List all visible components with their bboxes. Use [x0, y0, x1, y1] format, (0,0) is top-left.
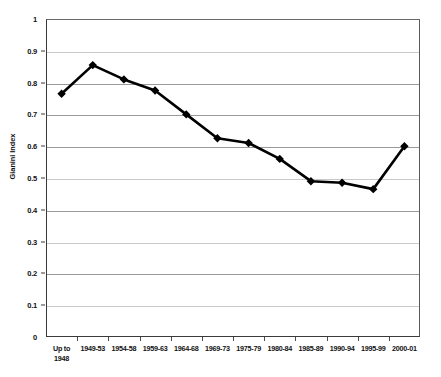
y-axis-tick-label: 0.3 [27, 237, 37, 246]
x-axis-tick-label: 1949-53 [76, 344, 110, 354]
y-axis-tick-label: 0.1 [27, 301, 37, 310]
y-axis-tick-mark [41, 241, 45, 242]
series-layer [46, 19, 420, 337]
y-axis-tick-label: 0.5 [27, 174, 37, 183]
x-axis-tick-mark [264, 337, 265, 341]
x-axis-tick-mark [358, 337, 359, 341]
x-axis-tick-marks [46, 337, 420, 343]
y-axis-tick-label: 0.2 [27, 269, 37, 278]
y-axis-tick-labels: 00.10.20.30.40.50.60.70.80.91 [0, 19, 42, 337]
x-axis-tick-mark [140, 337, 141, 341]
y-axis-tick-mark [41, 178, 45, 179]
x-axis-tick-mark [77, 337, 78, 341]
y-axis-tick-mark [41, 305, 45, 306]
series-markers [57, 61, 408, 193]
x-axis-tick-label: 2000-01 [387, 344, 421, 354]
y-axis-tick-mark [41, 50, 45, 51]
y-axis-tick-label: 0.7 [27, 110, 37, 119]
x-axis-tick-mark [389, 337, 390, 341]
x-axis-tick-label: 1975-79 [232, 344, 266, 354]
x-axis-tick-label: 1990-94 [325, 344, 359, 354]
x-axis-tick-mark [327, 337, 328, 341]
x-axis-tick-label: 1959-63 [138, 344, 172, 354]
x-axis-tick-label: 1995-99 [356, 344, 390, 354]
x-axis-tick-label: 1980-84 [263, 344, 297, 354]
x-axis-tick-label: 1969-73 [200, 344, 234, 354]
x-axis-tick-label: 1985-89 [294, 344, 328, 354]
y-axis-tick-label: 0.9 [27, 46, 37, 55]
x-axis-tick-labels: Up to 19481949-531954-581959-631964-6819… [0, 344, 441, 376]
y-axis-tick-label: 0.6 [27, 142, 37, 151]
x-axis-tick-mark [171, 337, 172, 341]
series-line [62, 65, 405, 189]
x-axis-tick-label: 1954-58 [107, 344, 141, 354]
x-axis-tick-mark [108, 337, 109, 341]
y-axis-tick-label: 0 [33, 333, 37, 342]
x-axis-tick-mark [295, 337, 296, 341]
y-axis-tick-mark [41, 273, 45, 274]
x-axis-tick-label: Up to 1948 [45, 344, 79, 363]
y-axis-tick-mark [41, 209, 45, 210]
x-axis-tick-mark [233, 337, 234, 341]
data-point-marker [338, 179, 346, 187]
y-axis-tick-mark [41, 146, 45, 147]
x-axis-tick-label: 1964-68 [169, 344, 203, 354]
line-chart: Gianini Index 00.10.20.30.40.50.60.70.80… [0, 0, 441, 377]
data-point-marker [120, 75, 128, 83]
x-axis-tick-mark [202, 337, 203, 341]
y-axis-tick-mark [41, 82, 45, 83]
y-axis-tick-label: 0.4 [27, 205, 37, 214]
y-axis-tick-label: 1 [33, 15, 37, 24]
y-axis-tick-label: 0.8 [27, 78, 37, 87]
y-axis-tick-mark [41, 114, 45, 115]
